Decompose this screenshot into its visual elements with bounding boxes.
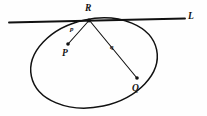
tangent-line-L [9, 19, 185, 23]
label-point-q: Q [132, 84, 139, 94]
geometry-figure: R L P Q p q [0, 0, 207, 116]
label-segment-q: q [110, 44, 114, 51]
point-dot-r [87, 19, 91, 23]
point-dot-p [66, 42, 70, 46]
label-tangent-line-l: L [188, 12, 194, 22]
point-dot-q [135, 76, 139, 80]
label-segment-p: p [70, 26, 74, 33]
figure-canvas [0, 0, 207, 116]
label-point-r: R [85, 4, 91, 14]
ellipse-curve [22, 7, 165, 116]
label-point-p: P [62, 49, 68, 59]
